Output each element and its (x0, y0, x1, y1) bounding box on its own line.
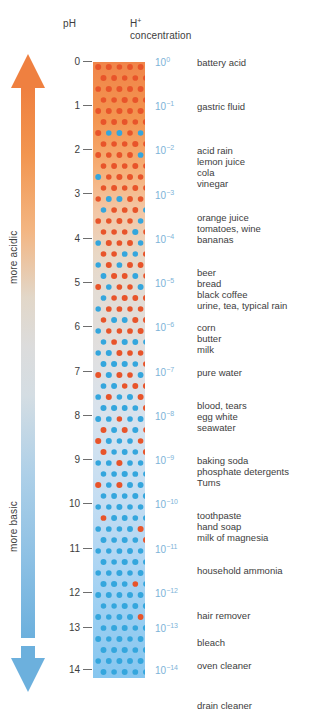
hydrogen-ion-dot (143, 273, 145, 278)
ph-tick-label: 1 (74, 100, 80, 111)
exponent-base: 10 (155, 455, 166, 466)
hydrogen-ion-dot (116, 86, 122, 92)
hydroxide-dot (106, 526, 112, 532)
hydrogen-ion-dot (122, 141, 128, 147)
ph-tick-label: 7 (74, 366, 80, 377)
hydrogen-ion-dot (122, 207, 128, 213)
ph-tick-label: 3 (74, 188, 80, 199)
hydroxide-dot (117, 262, 123, 268)
h-concentration-11: 10−11 (155, 544, 177, 555)
h-concentration-12: 10−12 (155, 588, 178, 599)
hydroxide-dot (138, 482, 144, 488)
h-superscript-plus: + (137, 17, 141, 24)
hydroxide-dot (117, 130, 123, 136)
hydrogen-ion-dot (122, 229, 128, 235)
hydrogen-ion-dot (127, 284, 132, 289)
concentration-word: concentration (130, 30, 191, 41)
h-concentration-8: 10−8 (155, 411, 174, 422)
ph-tick-14: 14 (40, 664, 92, 675)
ph-tick-11: 11 (40, 543, 92, 554)
hydroxide-dot (127, 504, 133, 510)
hydrogen-ion-dot (106, 306, 112, 312)
hydroxide-dot (132, 669, 138, 675)
hydrogen-ion-dot (101, 251, 107, 257)
ph-tick-label: 8 (74, 410, 80, 421)
substance-label: urine, tea, typical rain (197, 300, 287, 311)
hydroxide-dot (101, 295, 107, 301)
ph-tick-5: 5 (40, 277, 92, 288)
hydrogen-ion-dot (106, 394, 112, 400)
hydroxide-dot (127, 592, 133, 598)
hydrogen-ion-dot (127, 86, 133, 92)
hydroxide-dot (127, 614, 133, 620)
hydrogen-ion-dot (143, 449, 145, 455)
ph-color-bar (93, 62, 145, 678)
hydroxide-dot (95, 614, 101, 620)
ph-tick-label: 0 (74, 56, 80, 67)
h-concentration-5: 10−5 (155, 278, 174, 289)
hydroxide-dot (100, 405, 106, 411)
hydrogen-ion-dot (116, 218, 122, 224)
hydrogen-ion-dot (111, 251, 117, 257)
hydroxide-dot (116, 196, 122, 202)
hydroxide-dot (132, 339, 138, 345)
hydroxide-dot (132, 361, 138, 367)
substance-label: butter (197, 333, 221, 344)
ph-tick-label: 4 (74, 233, 80, 244)
hydrogen-ion-dot (117, 64, 123, 70)
exponent-power: −3 (166, 189, 174, 196)
hydrogen-ion-dot (133, 119, 139, 125)
exponent-power: −12 (166, 587, 178, 594)
hydroxide-dot (101, 625, 107, 631)
hydrogen-ion-dot (101, 185, 107, 191)
exponent-base: 10 (155, 234, 166, 245)
hydrogen-ion-dot (116, 372, 122, 378)
hydrogen-ion-dot (127, 306, 132, 311)
hydrogen-ion-dot (132, 207, 138, 213)
hydroxide-dot (95, 592, 101, 598)
exponent-base: 10 (155, 367, 166, 378)
substance-label: acid rain (197, 145, 233, 156)
hydrogen-ion-dot (138, 262, 144, 268)
exponent-power: −5 (166, 277, 174, 284)
substance-label: vinegar (197, 178, 228, 189)
hydrogen-ion-dot (143, 229, 145, 234)
hydrogen-ion-dot (127, 108, 133, 114)
hydrogen-ion-dot (111, 75, 117, 81)
hydroxide-dot (138, 636, 144, 642)
hydroxide-dot (116, 636, 122, 642)
hydroxide-dot (143, 625, 145, 631)
hydroxide-dot (127, 438, 133, 444)
hydroxide-dot (95, 416, 101, 422)
hydroxide-dot (95, 240, 101, 246)
substance-label: gastric fluid (197, 101, 245, 112)
hydrogen-ion-dot (122, 185, 128, 191)
hydroxide-dot (111, 669, 117, 675)
h-concentration-1: 10−1 (155, 101, 174, 112)
hydrogen-ion-dot (111, 119, 117, 125)
hydroxide-dot (143, 669, 145, 675)
hydrogen-ion-dot (127, 152, 133, 158)
hydrogen-ion-dot (101, 317, 107, 323)
hydrogen-ion-dot (106, 86, 112, 92)
hydroxide-dot (138, 372, 144, 378)
exponent-power: −4 (166, 233, 174, 240)
hydrogen-ion-dot (101, 163, 107, 169)
hydroxide-dot (132, 647, 138, 653)
ph-tick-label: 11 (70, 543, 80, 554)
h-concentration-3: 10−3 (155, 190, 174, 201)
hydrogen-ion-dot (143, 251, 145, 257)
hydrogen-ion-dot (143, 361, 145, 367)
substance-label: bread (197, 278, 221, 289)
hydrogen-ion-dot (138, 108, 144, 114)
substance-label: tomatoes, wine (197, 223, 261, 234)
ph-tick-mark (83, 105, 92, 106)
hydroxide-dot (143, 603, 145, 609)
hydrogen-ion-dot (138, 614, 144, 620)
hydroxide-dot (132, 603, 138, 609)
exponent-base: 10 (155, 499, 166, 510)
exponent-power: 0 (166, 56, 170, 63)
ph-tick-label: 2 (74, 144, 80, 155)
substance-label: beer (197, 267, 216, 278)
hydroxide-dot (127, 548, 133, 554)
